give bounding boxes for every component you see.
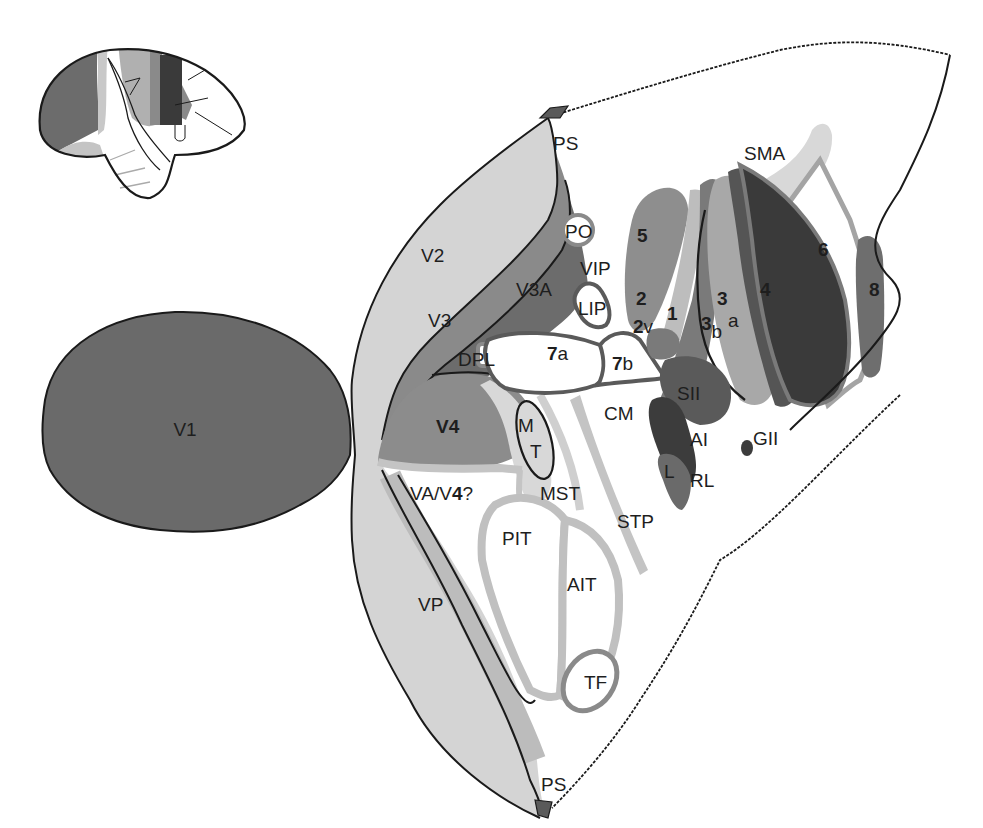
label-v4: V4 [436, 416, 460, 437]
label-ps-top: PS [553, 133, 578, 154]
label-vip: VIP [580, 258, 611, 279]
label-vp: VP [418, 594, 443, 615]
label-v3a: V3A [516, 279, 552, 300]
label-ai: AI [690, 429, 708, 450]
label-dpl: DPL [458, 349, 495, 370]
label-mt-m: M [518, 415, 534, 436]
brain-inset [30, 40, 245, 198]
label-v1: V1 [173, 419, 196, 440]
label-mt-t: T [530, 441, 542, 462]
label-7a: 7a [547, 343, 569, 364]
label-ps-bottom: PS [541, 774, 566, 795]
label-v2: V2 [421, 245, 444, 266]
label-tf: TF [584, 672, 607, 693]
label-va-v4: VA/V4? [410, 483, 473, 504]
label-sii: SII [677, 383, 700, 404]
label-area2v: 2v [633, 316, 654, 337]
label-7b: 7b [612, 353, 633, 374]
label-l: L [664, 461, 675, 482]
label-area3: 3 [717, 288, 728, 309]
label-area2: 2 [636, 288, 647, 309]
cortex-map: V1 [0, 0, 983, 828]
label-cm: CM [604, 403, 634, 424]
label-po: PO [565, 221, 592, 242]
ps-marker-bottom [535, 800, 552, 818]
label-sma: SMA [744, 143, 786, 164]
label-lip: LIP [578, 298, 607, 319]
area-gii [741, 440, 753, 456]
label-pit: PIT [502, 528, 532, 549]
label-mst: MST [540, 483, 581, 504]
label-rl: RL [690, 470, 714, 491]
label-area5: 5 [637, 225, 648, 246]
label-gii: GII [753, 428, 778, 449]
label-area4: 4 [760, 279, 771, 300]
area-v1: V1 [43, 312, 351, 532]
label-ait: AIT [567, 574, 597, 595]
label-area6: 6 [818, 239, 829, 260]
label-area8: 8 [869, 279, 880, 300]
label-area1: 1 [667, 303, 678, 324]
label-area3a-sub: a [728, 310, 739, 331]
label-stp: STP [617, 511, 654, 532]
label-v3: V3 [428, 310, 451, 331]
